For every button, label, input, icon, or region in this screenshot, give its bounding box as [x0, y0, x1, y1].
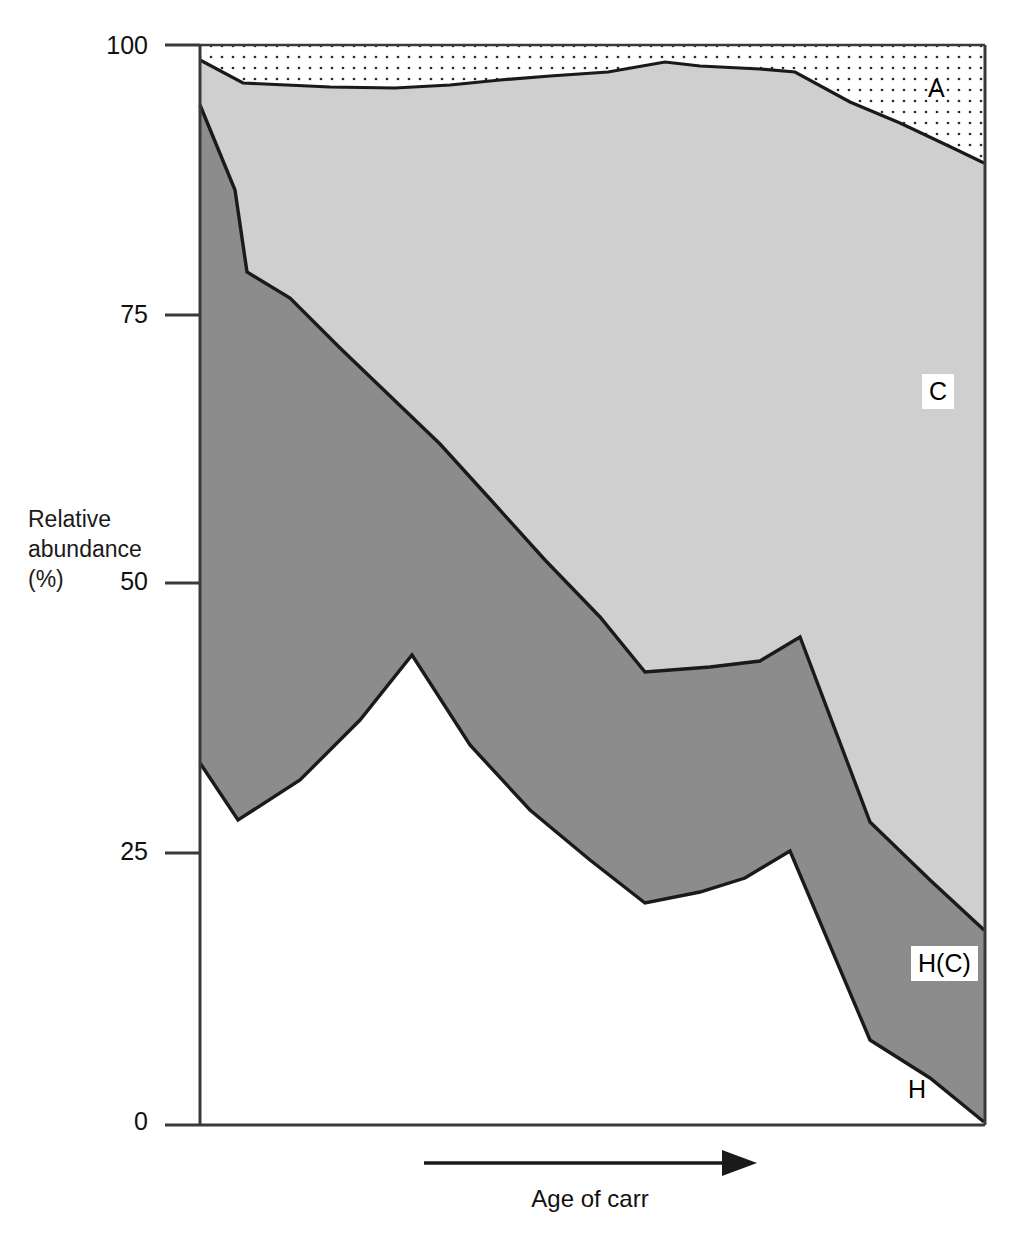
- y-axis-title-line-2: abundance: [28, 534, 142, 564]
- area-label-C: C: [922, 374, 954, 409]
- y-tick-label-50: 50: [70, 567, 148, 596]
- chart-figure: Relative abundance (%) 100 75 50 25 0: [0, 0, 1016, 1239]
- y-tick-label-100: 100: [70, 31, 148, 60]
- y-axis-title-line-1: Relative: [28, 504, 142, 534]
- y-tick-label-75: 75: [70, 300, 148, 329]
- y-tick-label-0: 0: [70, 1107, 148, 1136]
- x-axis-title: Age of carr: [420, 1185, 760, 1213]
- area-label-H: H: [908, 1077, 926, 1102]
- y-tick-label-25: 25: [70, 837, 148, 866]
- stacked-area-plot: [0, 0, 1016, 1239]
- area-label-HC: H(C): [911, 946, 978, 981]
- area-label-A: A: [928, 76, 945, 101]
- x-axis-direction-arrow: [424, 1150, 757, 1176]
